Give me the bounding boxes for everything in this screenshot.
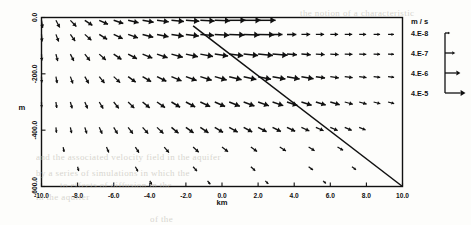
velocity-vector bbox=[186, 32, 199, 38]
velocity-vector bbox=[359, 127, 365, 130]
velocity-vector bbox=[273, 75, 286, 81]
velocity-vector bbox=[99, 127, 102, 133]
velocity-vector bbox=[70, 102, 73, 108]
velocity-vector bbox=[70, 127, 73, 133]
legend-label: 4.E-6 bbox=[411, 69, 428, 78]
velocity-vector bbox=[135, 167, 138, 172]
velocity-vector bbox=[244, 31, 260, 37]
velocity-vector bbox=[229, 75, 241, 81]
velocity-vector bbox=[70, 20, 76, 26]
velocity-vector bbox=[114, 102, 119, 108]
velocity-vector bbox=[359, 101, 366, 105]
velocity-vector bbox=[215, 127, 223, 132]
y-tick-label: -400.0 bbox=[31, 120, 38, 139]
velocity-vector bbox=[301, 101, 311, 106]
velocity-vector bbox=[128, 127, 133, 133]
velocity-vector bbox=[85, 34, 92, 40]
x-tick-label: 6.0 bbox=[326, 192, 335, 199]
velocity-vector bbox=[258, 101, 269, 107]
velocity-vector bbox=[244, 127, 253, 132]
legend-arrow-head bbox=[448, 32, 450, 35]
velocity-vector bbox=[265, 181, 268, 184]
x-tick-label: 8.0 bbox=[362, 192, 371, 199]
velocity-vector bbox=[345, 101, 353, 105]
velocity-vector bbox=[280, 147, 286, 151]
velocity-vector bbox=[316, 101, 326, 106]
legend-label: 4.E-8 bbox=[411, 29, 428, 38]
velocity-vector bbox=[222, 147, 228, 152]
velocity-vector bbox=[40, 77, 43, 83]
velocity-vector bbox=[143, 127, 149, 133]
velocity-vector bbox=[374, 101, 381, 105]
velocity-vector bbox=[186, 76, 197, 82]
velocity-vector bbox=[193, 147, 199, 152]
velocity-vector bbox=[200, 52, 213, 58]
velocity-vector bbox=[330, 101, 339, 106]
x-tick-label: -2.0 bbox=[180, 192, 192, 199]
velocity-vector bbox=[287, 32, 296, 37]
velocity-vector bbox=[215, 52, 228, 58]
legend-arrow-head bbox=[461, 90, 466, 96]
velocity-vector bbox=[157, 18, 169, 24]
velocity-field-figure: the notion of a characteristicand the as… bbox=[0, 0, 471, 225]
velocity-vector bbox=[40, 102, 43, 108]
velocity-vector bbox=[114, 20, 124, 25]
velocity-vector bbox=[200, 102, 210, 107]
velocity-vector bbox=[77, 167, 80, 171]
velocity-vector bbox=[309, 147, 315, 151]
velocity-vector bbox=[55, 102, 58, 108]
x-tick-label: -4.0 bbox=[144, 192, 156, 199]
velocity-vector bbox=[171, 127, 178, 133]
velocity-vector bbox=[143, 54, 153, 59]
x-axis-label: km bbox=[217, 198, 228, 207]
velocity-vector bbox=[244, 52, 258, 58]
plot-frame bbox=[42, 18, 403, 187]
velocity-vector bbox=[157, 33, 168, 39]
velocity-vector bbox=[200, 17, 214, 23]
velocity-vector bbox=[345, 75, 353, 79]
velocity-vector bbox=[128, 77, 136, 83]
velocity-vector bbox=[143, 19, 154, 25]
legend-items: 4.E-84.E-74.E-64.E-5 bbox=[411, 29, 466, 98]
velocity-vector bbox=[345, 32, 352, 36]
velocity-vector bbox=[143, 33, 154, 39]
velocity-vector bbox=[56, 34, 60, 41]
x-tick-label: -8.0 bbox=[72, 192, 84, 199]
velocity-vector bbox=[128, 19, 138, 24]
velocity-vector bbox=[330, 32, 338, 36]
velocity-vector bbox=[359, 52, 366, 56]
velocity-vector bbox=[244, 102, 255, 108]
legend-label: 4.E-7 bbox=[411, 49, 428, 58]
velocity-vector bbox=[338, 147, 344, 150]
velocity-vector bbox=[273, 127, 281, 132]
velocity-vector bbox=[215, 17, 230, 23]
velocity-vector bbox=[258, 52, 273, 58]
y-tick-label: 0.0 bbox=[31, 13, 38, 22]
velocity-vector bbox=[359, 33, 366, 37]
velocity-vector bbox=[99, 77, 104, 83]
vector-field-plot: -10.0-8.0-6.0-4.0-2.00.02.04.06.08.010.0… bbox=[0, 0, 471, 225]
velocity-vector bbox=[171, 102, 180, 107]
velocity-vector bbox=[251, 167, 255, 171]
velocity-vector bbox=[244, 75, 257, 81]
velocity-vector bbox=[352, 167, 356, 170]
velocity-vector bbox=[40, 34, 44, 41]
velocity-vector bbox=[135, 147, 139, 153]
x-tick-label: -6.0 bbox=[108, 192, 120, 199]
velocity-vector bbox=[258, 31, 274, 37]
legend-title: m / s bbox=[411, 17, 428, 26]
x-tick-label: 4.0 bbox=[290, 192, 299, 199]
velocity-vector bbox=[345, 127, 352, 131]
y-axis-label: m bbox=[19, 103, 26, 112]
velocity-vector bbox=[171, 76, 181, 81]
velocity-vector bbox=[85, 54, 90, 61]
velocity-vector bbox=[186, 53, 198, 59]
velocity-vector bbox=[62, 147, 65, 152]
velocity-vector bbox=[114, 127, 118, 133]
velocity-vector bbox=[55, 77, 58, 84]
velocity-vector bbox=[229, 127, 237, 132]
velocity-vector bbox=[316, 32, 324, 36]
y-tick-label: -600.0 bbox=[31, 177, 38, 196]
legend-arrow-head bbox=[456, 71, 460, 76]
magnitude-legend: m / s 4.E-84.E-74.E-64.E-5 bbox=[411, 17, 466, 98]
